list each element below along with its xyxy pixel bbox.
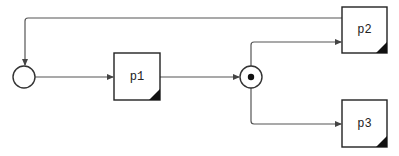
process-node-p1[interactable]: p1 — [114, 53, 160, 100]
node-label-p1: p1 — [130, 70, 144, 84]
junction-dot-icon — [248, 74, 254, 80]
node-label-p3: p3 — [357, 117, 371, 131]
junction-node[interactable] — [240, 66, 262, 88]
process-node-p3[interactable]: p3 — [342, 100, 387, 147]
start-node[interactable] — [13, 66, 35, 88]
process-node-p2[interactable]: p2 — [342, 7, 387, 53]
node-label-p2: p2 — [357, 23, 371, 37]
edge-split-to-p3 — [251, 88, 341, 124]
start-circle-icon — [13, 66, 35, 88]
process-diagram: p1 p2 p3 — [0, 0, 399, 156]
edge-split-to-p2 — [251, 42, 341, 66]
